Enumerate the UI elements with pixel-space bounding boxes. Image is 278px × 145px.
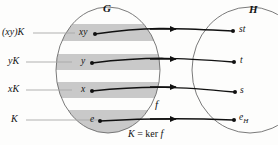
image-label-eh: eH xyxy=(239,113,248,125)
kernel-note-lhs: K xyxy=(128,128,135,139)
group-homomorphism-diagram xyxy=(0,0,278,145)
point-st xyxy=(231,29,235,33)
coset-label-k: K xyxy=(11,114,18,124)
kernel-note: K = ker f xyxy=(128,129,163,139)
coset-label-y: yK xyxy=(8,56,19,66)
point-t xyxy=(232,60,236,64)
domain-set-label-G: G xyxy=(103,3,111,14)
element-label-x: x xyxy=(81,85,85,95)
element-label-xy: xy xyxy=(79,28,87,38)
codomain-ellipse-H xyxy=(192,7,278,133)
image-label-st: st xyxy=(239,25,245,35)
figure-canvas: G H (xy)K yK xK K xy y x e st t s eH f K… xyxy=(0,0,278,145)
element-label-y: y xyxy=(81,57,85,67)
kernel-note-ker: ker xyxy=(145,128,158,139)
coset-label-x: xK xyxy=(8,84,19,94)
point-s xyxy=(233,90,237,94)
map-label-f: f xyxy=(155,99,158,110)
mapping-arrows xyxy=(92,28,234,121)
image-label-t: t xyxy=(240,56,243,66)
codomain-set-label-H: H xyxy=(249,4,258,15)
element-label-e: e xyxy=(90,115,94,125)
image-label-eh-subscript: H xyxy=(243,117,248,125)
coset-label-xy: (xy)K xyxy=(2,27,24,37)
image-label-s: s xyxy=(240,86,244,96)
point-eh xyxy=(232,118,236,122)
kernel-note-arg: f xyxy=(158,128,163,139)
kernel-note-equals: = xyxy=(135,128,146,139)
